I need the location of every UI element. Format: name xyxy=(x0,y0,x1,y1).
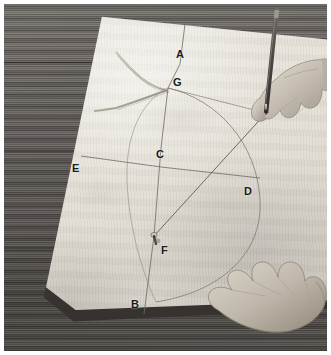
photograph: A G C E D F B xyxy=(0,0,331,355)
photo-scene: A G C E D F B xyxy=(4,4,327,351)
pencil-shaft-highlight xyxy=(265,18,275,110)
pencil xyxy=(4,4,327,351)
pencil-ferrule xyxy=(276,10,277,18)
pencil-shaft xyxy=(266,16,276,113)
